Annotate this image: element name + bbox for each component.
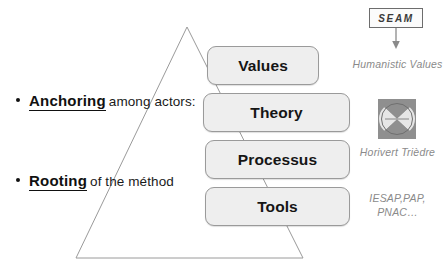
bullet-text: of the méthod — [90, 174, 174, 189]
pyramid-level-tools[interactable]: Tools — [205, 187, 350, 226]
bullet-dot-icon — [16, 178, 20, 182]
horivert-trihedron-icon — [378, 99, 416, 139]
pyramid-level-label: Processus — [238, 151, 317, 169]
pyramid-level-label: Theory — [250, 104, 302, 122]
seam-label: SEAM — [378, 13, 413, 24]
pyramid-level-processus[interactable]: Processus — [205, 140, 350, 179]
right-annotation-column: SEAM Humanistic Values Horivert Trièdre … — [352, 0, 443, 273]
arrow-down-icon — [388, 28, 404, 50]
caption-humanistic-values: Humanistic Values — [352, 57, 443, 71]
bullet-item-anchoring: Anchoring among actors: — [16, 92, 196, 111]
diagram-canvas: Values Theory Processus Tools Anchoring … — [0, 0, 443, 273]
pyramid-level-theory[interactable]: Theory — [203, 93, 350, 132]
pyramid-level-label: Tools — [257, 198, 298, 216]
bullet-dot-icon — [16, 98, 20, 102]
pyramid-level-label: Values — [238, 57, 288, 75]
bullet-keyword: Anchoring — [29, 92, 106, 111]
bullet-text: among actors: — [109, 94, 196, 109]
bullet-item-rooting: Rooting of the méthod — [16, 172, 174, 191]
caption-horivert-triedre: Horivert Trièdre — [352, 145, 443, 159]
caption-iesap-pap-pnac: IESAP,PAP, PNAC… — [352, 191, 443, 219]
bullet-keyword: Rooting — [29, 172, 87, 191]
pyramid-level-values[interactable]: Values — [207, 46, 319, 85]
seam-source-box[interactable]: SEAM — [369, 8, 423, 28]
